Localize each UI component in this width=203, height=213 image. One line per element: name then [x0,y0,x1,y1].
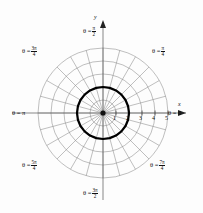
theta-eq-text: θ = [152,47,160,54]
grid-spoke-30deg [103,81,159,114]
theta-eq-text: θ = [168,109,176,116]
theta-denominator: 2 [92,32,96,37]
theta-label-0: θ = 0 [168,110,181,117]
theta-eq-text: θ = [12,109,20,116]
theta-value: π [22,109,25,116]
theta-eq-text: θ = [150,161,158,168]
y-axis-label: y [94,14,97,20]
grid-spoke-225deg [57,113,103,159]
theta-denominator: 2 [92,194,98,199]
grid-spoke-45deg [103,67,149,113]
grid-spoke-15deg [103,96,166,113]
grid-spoke-210deg [47,113,103,146]
grid-spoke-300deg [103,113,136,169]
origin-point [100,110,105,115]
theta-label-pi-over-2: θ =π2 [83,26,96,38]
polar-plot-figure: 1 2 3 4 5 x y θ =π2 θ =π4 θ =3π4 θ = π θ… [0,0,203,213]
theta-label-5pi-over-4: θ =5π4 [22,160,37,172]
grid-spoke-60deg [103,57,136,113]
grid-spoke-165deg [40,96,103,113]
x-axis-label: x [178,101,181,107]
theta-eq-text: θ = [22,161,30,168]
theta-label-3pi-over-4: θ =3π4 [22,46,37,58]
theta-denominator: 4 [159,166,165,171]
theta-label-3pi-over-2: θ =3π2 [83,188,98,200]
grid-spoke-150deg [47,81,103,114]
x-tick-label-3: 3 [139,115,142,121]
x-tick-label-1: 1 [113,115,116,121]
grid-spoke-135deg [57,67,103,113]
grid-spoke-120deg [71,57,104,113]
grid-spoke-255deg [86,113,103,176]
theta-denominator: 4 [31,166,37,171]
grid-spoke-330deg [103,113,159,146]
theta-eq-text: θ = [22,47,30,54]
x-tick-label-2: 2 [126,115,129,121]
grid-spoke-195deg [40,113,103,130]
y-axis-arrowhead [100,20,106,28]
theta-eq-text: θ = [83,27,91,34]
x-tick-label-4: 4 [152,115,155,121]
theta-label-pi-over-4: θ =π4 [152,46,165,58]
theta-label-pi: θ = π [12,110,25,117]
grid-spoke-75deg [103,50,120,113]
theta-denominator: 4 [161,52,165,57]
axis-arrowheads [100,20,186,116]
theta-eq-text: θ = [83,189,91,196]
grid-spoke-105deg [86,50,103,113]
theta-denominator: 4 [31,52,37,57]
polar-grid-canvas [0,0,203,213]
theta-value: 0 [178,109,181,116]
grid-spoke-240deg [71,113,104,169]
theta-label-7pi-over-4: θ =7π4 [150,160,165,172]
grid-spoke-285deg [103,113,120,176]
